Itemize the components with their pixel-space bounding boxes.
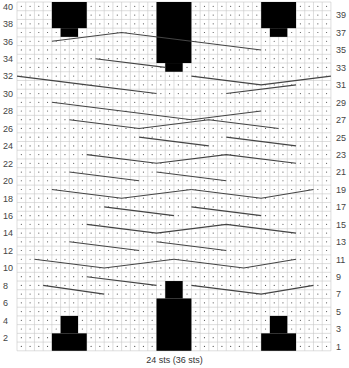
svg-text:36: 36: [3, 37, 13, 47]
svg-text:14: 14: [3, 228, 13, 238]
svg-text:32: 32: [3, 71, 13, 81]
svg-text:7: 7: [336, 289, 341, 299]
svg-text:25: 25: [336, 133, 346, 143]
svg-text:17: 17: [336, 202, 346, 212]
stitch-count-caption: 24 sts (36 sts): [0, 355, 349, 365]
svg-text:18: 18: [3, 194, 13, 204]
svg-text:6: 6: [3, 298, 8, 308]
svg-text:12: 12: [3, 246, 13, 256]
svg-text:15: 15: [336, 220, 346, 230]
svg-text:27: 27: [336, 115, 346, 125]
svg-text:38: 38: [3, 19, 13, 29]
svg-text:37: 37: [336, 28, 346, 38]
svg-text:13: 13: [336, 237, 346, 247]
svg-text:19: 19: [336, 185, 346, 195]
svg-text:33: 33: [336, 63, 346, 73]
svg-text:10: 10: [3, 263, 13, 273]
svg-text:4: 4: [3, 316, 8, 326]
svg-text:23: 23: [336, 150, 346, 160]
svg-text:40: 40: [3, 2, 13, 12]
svg-text:35: 35: [336, 45, 346, 55]
svg-text:5: 5: [336, 307, 341, 317]
svg-text:31: 31: [336, 80, 346, 90]
svg-text:9: 9: [336, 272, 341, 282]
svg-text:11: 11: [336, 255, 345, 265]
svg-text:2: 2: [3, 333, 8, 343]
svg-text:29: 29: [336, 98, 346, 108]
svg-text:22: 22: [3, 159, 13, 169]
svg-text:16: 16: [3, 211, 13, 221]
svg-text:3: 3: [336, 324, 341, 334]
svg-text:21: 21: [336, 167, 346, 177]
svg-text:30: 30: [3, 89, 13, 99]
svg-text:1: 1: [336, 342, 341, 352]
svg-text:34: 34: [3, 54, 13, 64]
svg-text:39: 39: [336, 10, 346, 20]
knitting-chart: 4038363432302826242220181614121086423937…: [0, 0, 349, 355]
svg-text:26: 26: [3, 124, 13, 134]
svg-text:8: 8: [3, 281, 8, 291]
svg-text:28: 28: [3, 106, 13, 116]
svg-text:24: 24: [3, 141, 13, 151]
svg-text:20: 20: [3, 176, 13, 186]
